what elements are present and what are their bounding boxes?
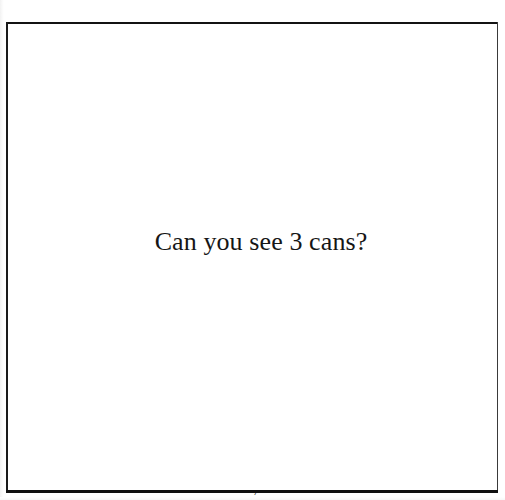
illustration-frame: Can you see 3 cans? [6,22,498,493]
scanned-page: Can you see 3 cans? 7 [0,0,505,500]
figure-caption: Can you see 3 cans? [6,22,498,493]
scan-left-edge-artifact [0,0,4,500]
caption-text: Can you see 3 cans? [155,228,368,257]
